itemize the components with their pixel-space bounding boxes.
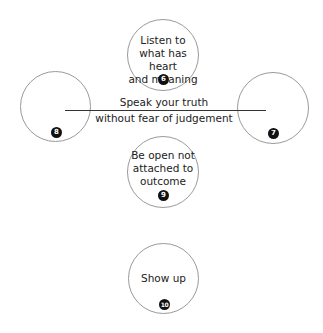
node-show-text: Show up bbox=[129, 272, 198, 285]
center-label-line-2: without fear of judgement bbox=[94, 112, 234, 125]
number-badge-8: 8 bbox=[51, 127, 62, 138]
node-right: 7 bbox=[237, 72, 309, 144]
node-open: Be open not attached to outcome 9 bbox=[127, 136, 199, 208]
node-listen-line-2: what has heart bbox=[128, 47, 198, 73]
node-listen-line-1: Listen to bbox=[128, 34, 198, 47]
number-badge-6: 6 bbox=[158, 74, 169, 85]
center-label-line-1: Speak your truth bbox=[104, 96, 224, 109]
node-open-line-1: Be open not bbox=[128, 149, 198, 162]
node-open-text: Be open not attached to outcome bbox=[128, 149, 198, 188]
node-show-line-1: Show up bbox=[129, 272, 198, 285]
node-open-line-2: attached to bbox=[128, 162, 198, 175]
node-listen: Listen to what has heart and meaning 6 bbox=[127, 19, 199, 91]
node-show: Show up 10 bbox=[128, 243, 199, 314]
node-open-line-3: outcome bbox=[128, 175, 198, 188]
connector-line bbox=[65, 110, 266, 111]
number-badge-7: 7 bbox=[268, 128, 279, 139]
number-badge-9: 9 bbox=[158, 190, 169, 201]
node-left: 8 bbox=[20, 71, 91, 142]
number-badge-10: 10 bbox=[159, 299, 170, 310]
